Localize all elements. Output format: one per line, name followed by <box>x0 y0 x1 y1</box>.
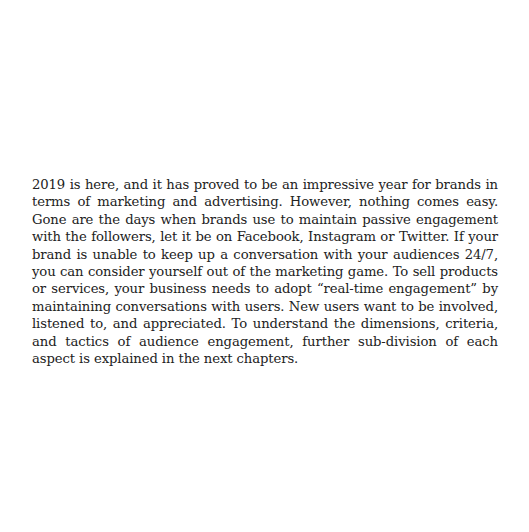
body-paragraph: 2019 is here, and it has proved to be an… <box>32 176 498 367</box>
document-page: 2019 is here, and it has proved to be an… <box>0 0 529 532</box>
